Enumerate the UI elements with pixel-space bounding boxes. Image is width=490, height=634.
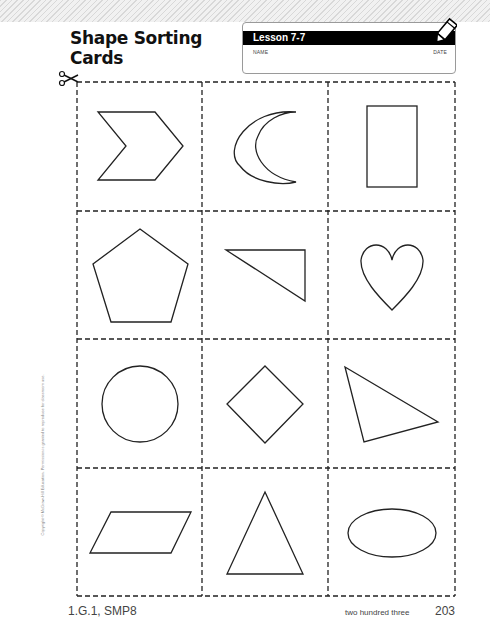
card-chevron[interactable] <box>98 112 183 180</box>
card-right-triangle[interactable] <box>226 250 305 301</box>
card-pentagon[interactable] <box>93 229 188 322</box>
card-heart[interactable] <box>361 245 423 310</box>
page-number: 203 <box>435 604 455 618</box>
copyright-notice: Copyright © McGraw-Hill Education. Permi… <box>40 374 45 535</box>
card-isosceles-triangle[interactable] <box>227 492 303 574</box>
page-number-words: two hundred three <box>345 608 410 617</box>
card-scalene-triangle[interactable] <box>345 367 438 442</box>
card-oval[interactable] <box>348 509 436 557</box>
card-grid <box>0 0 490 634</box>
card-crescent[interactable] <box>234 112 296 184</box>
standards-label: 1.G.1, SMP8 <box>68 604 137 618</box>
card-parallelogram[interactable] <box>90 512 191 553</box>
card-circle[interactable] <box>102 366 178 442</box>
card-rectangle[interactable] <box>367 106 417 187</box>
card-rhombus[interactable] <box>227 366 303 443</box>
